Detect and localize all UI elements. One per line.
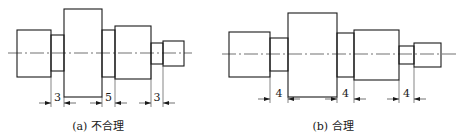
dimension-label: 4	[342, 87, 349, 100]
shaft-diagrams: 3 5 3 (a) 不合理	[0, 0, 458, 138]
dimension-label: 5	[105, 91, 112, 104]
dimension-groove-2: 5	[90, 91, 127, 105]
shaft-segment-2	[288, 13, 337, 97]
shaft-segment-1	[229, 32, 270, 77]
dimension-label: 3	[154, 91, 161, 104]
figure-b: 4 4 4 (b) 合理	[222, 13, 456, 133]
shaft-segment-4	[163, 41, 184, 66]
shaft-segment-3	[354, 30, 399, 80]
shaft-segment-4	[414, 43, 441, 67]
dimension-groove-1: 3	[39, 91, 76, 105]
groove-3	[399, 46, 414, 64]
figure-a: 3 5 3 (a) 不合理	[8, 9, 192, 133]
dimension-groove-3: 3	[139, 91, 175, 105]
groove-2	[102, 30, 115, 77]
dimension-label: 4	[403, 87, 410, 100]
groove-2	[337, 33, 354, 77]
dimension-groove-3: 4	[387, 87, 426, 101]
groove-1	[270, 38, 288, 71]
dimension-groove-2: 4	[325, 87, 366, 101]
dimension-groove-1: 4	[258, 87, 300, 101]
caption-a: (a) 不合理	[72, 119, 124, 133]
shaft-segment-1	[17, 30, 51, 77]
caption-b: (b) 合理	[312, 119, 353, 133]
dimension-label: 3	[54, 91, 61, 104]
shaft-segment-3	[115, 26, 151, 79]
groove-3	[151, 43, 163, 64]
dimension-label: 4	[276, 87, 283, 100]
